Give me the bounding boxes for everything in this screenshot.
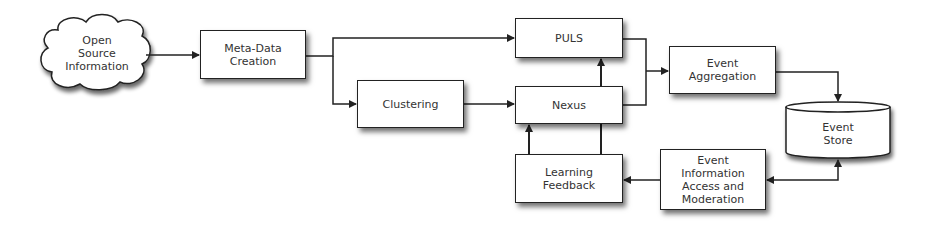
node-nexus: Nexus bbox=[515, 86, 623, 124]
node-clustering: Clustering bbox=[357, 80, 464, 128]
node-meta-data-creation: Meta-Data Creation bbox=[200, 30, 306, 79]
edge-aggregation-to-store bbox=[776, 72, 838, 101]
node-learning-feedback: Learning Feedback bbox=[515, 154, 623, 203]
node-open-source-information: Open Source Information bbox=[50, 20, 144, 86]
edge-meta-to-clustering bbox=[333, 56, 356, 104]
edge-store-access bbox=[767, 160, 838, 180]
node-event-store: Event Store bbox=[786, 114, 890, 154]
node-event-information-access-moderation: Event Information Access and Moderation bbox=[660, 149, 766, 210]
node-puls: PULS bbox=[515, 18, 623, 58]
edge-merge bbox=[623, 39, 646, 105]
system-flow-diagram: Open Source Information Meta-Data Creati… bbox=[0, 0, 936, 232]
edge-meta-to-puls bbox=[306, 38, 514, 56]
node-event-aggregation: Event Aggregation bbox=[669, 46, 776, 94]
